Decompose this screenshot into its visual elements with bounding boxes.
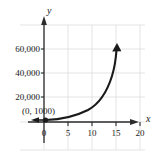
x-tick-label-10: 10: [84, 129, 100, 138]
data-point-marker: [43, 117, 48, 122]
y-tick-label-40000: 40,000: [6, 69, 40, 78]
exponential-growth-chart: 60,000 40,000 20,000 0 5 10 15 20 y x (0…: [0, 0, 160, 158]
y-tick-label-60000: 60,000: [6, 45, 40, 54]
point-annotation-origin: (0, 1000): [22, 107, 55, 116]
y-axis: [41, 16, 47, 143]
x-tick-label-0: 0: [36, 129, 52, 138]
x-axis-label: x: [146, 114, 150, 124]
x-tick-label-15: 15: [108, 129, 124, 138]
exponential-curve: [46, 43, 121, 120]
y-tick-label-20000: 20,000: [6, 93, 40, 102]
y-axis-label: y: [47, 6, 51, 16]
x-tick-label-5: 5: [60, 129, 76, 138]
x-tick-label-20: 20: [132, 129, 148, 138]
